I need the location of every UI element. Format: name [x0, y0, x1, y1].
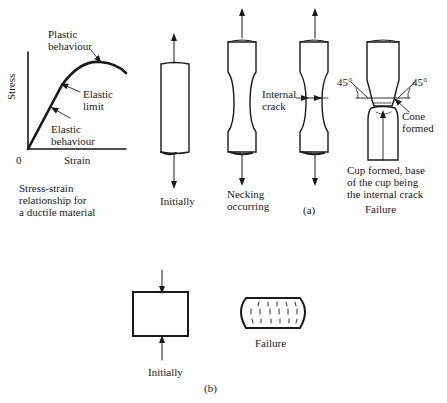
label-elastic-limit-line2: limit — [83, 100, 104, 112]
specimen-internal-crack — [296, 12, 328, 182]
specimen-failure — [351, 40, 415, 160]
label-internal-crack-line2: crack — [262, 100, 286, 112]
part-label-a: (a) — [303, 204, 315, 216]
label-angle-right: 45° — [412, 76, 427, 88]
label-elastic-line1: Elastic — [51, 123, 81, 135]
label-cup-line3: the internal crack — [347, 188, 423, 200]
label-failure-tension: Failure — [365, 203, 396, 215]
compression-initial — [133, 270, 188, 360]
label-cone-line1: Cone — [402, 110, 425, 122]
label-plastic-line2: behaviour — [48, 40, 92, 52]
caption-line3: a ductile material — [19, 206, 95, 218]
part-label-b: (b) — [204, 382, 217, 394]
label-elastic-line2: behaviour — [51, 135, 95, 147]
label-failure-compression: Failure — [255, 337, 286, 349]
x-axis-label: Strain — [64, 154, 90, 166]
label-initially-compression: Initially — [148, 366, 183, 378]
label-necking-line1: Necking — [227, 188, 264, 200]
label-internal-crack-line1: Internal — [262, 88, 296, 100]
label-plastic-line1: Plastic — [48, 28, 77, 40]
label-cup-line1: Cup formed, base — [347, 164, 425, 176]
compression-failure — [241, 298, 305, 328]
caption-line2: relationship for — [19, 194, 87, 206]
y-axis-label: Stress — [5, 74, 17, 100]
label-elastic-limit-line1: Elastic — [83, 88, 113, 100]
origin-label: 0 — [16, 154, 22, 166]
specimen-initial — [161, 37, 189, 185]
label-necking-line2: occurring — [227, 200, 269, 212]
label-angle-left: 45° — [337, 76, 352, 88]
specimen-necking — [228, 12, 256, 182]
label-cup-line2: of the cup being — [347, 176, 418, 188]
label-initially-tension: Initially — [160, 195, 195, 207]
caption-line1: Stress-strain — [19, 182, 73, 194]
label-cone-line2: formed — [402, 122, 434, 134]
